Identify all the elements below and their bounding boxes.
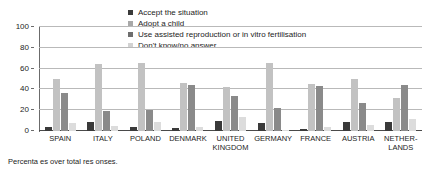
chart-footnote: Percenta es over total res onses. (8, 157, 118, 167)
bar (130, 127, 137, 131)
bar-group (39, 27, 82, 131)
bars (39, 27, 82, 131)
bars (252, 27, 295, 131)
bars (209, 27, 252, 131)
bar (351, 79, 358, 131)
bar (103, 111, 110, 131)
x-axis-label-line: NETHER- (380, 134, 423, 143)
bar-group (337, 27, 380, 131)
bar (146, 110, 153, 131)
x-axis-label-line: KINGDOM (209, 143, 252, 152)
plot-area (39, 27, 422, 131)
y-tick-label-20: 20 (20, 106, 29, 114)
bar-group (380, 27, 423, 131)
bar (45, 127, 52, 131)
y-tick-label-40: 40 (20, 85, 29, 93)
bars (294, 27, 337, 131)
y-tick-mark-0 (31, 130, 34, 131)
bar-group (209, 27, 252, 131)
legend-item-label: Accept the situation (138, 7, 208, 18)
x-axis-label: POLAND (124, 134, 167, 152)
y-tick-label-0: 0 (25, 127, 29, 135)
bar (196, 127, 203, 131)
bar-group (124, 27, 167, 131)
bar (223, 87, 230, 131)
x-axis-label: GERMANY (252, 134, 295, 152)
bar (343, 122, 350, 131)
x-axis-label: SPAIN (39, 134, 82, 152)
y-axis: 020406080100 (0, 27, 34, 131)
bar (282, 130, 289, 131)
x-axis-label-line: SPAIN (39, 134, 82, 143)
x-axis-label-line: ITALY (82, 134, 125, 143)
bars (380, 27, 423, 131)
y-tick-mark-80 (31, 47, 34, 48)
x-axis-label-line: POLAND (124, 134, 167, 143)
x-axis-label: UNITEDKINGDOM (209, 134, 252, 152)
bar-group (82, 27, 125, 131)
bar (53, 79, 60, 131)
x-axis-label-line: AUSTRIA (337, 134, 380, 143)
bar (300, 129, 307, 131)
bar (308, 84, 315, 131)
legend-swatch-icon (128, 10, 133, 15)
bar-group (294, 27, 337, 131)
bar (231, 96, 238, 131)
y-tick-mark-20 (31, 109, 34, 110)
bar (274, 108, 281, 131)
x-axis-label-line: DENMARK (167, 134, 210, 143)
bar (409, 119, 416, 131)
bar (87, 122, 94, 131)
bar (138, 63, 145, 131)
legend-item: Accept the situation (128, 7, 378, 18)
y-tick-label-80: 80 (20, 44, 29, 52)
bar-group (252, 27, 295, 131)
bar (154, 122, 161, 131)
bars (167, 27, 210, 131)
y-tick-mark-100 (31, 26, 34, 27)
x-axis-labels: SPAINITALYPOLANDDENMARKUNITEDKINGDOMGERM… (39, 134, 422, 152)
x-axis-label-line: GERMANY (252, 134, 295, 143)
bar (266, 63, 273, 131)
x-axis-label: AUSTRIA (337, 134, 380, 152)
bar-group (167, 27, 210, 131)
y-tick-mark-60 (31, 68, 34, 69)
x-axis-label: DENMARK (167, 134, 210, 152)
bar (188, 85, 195, 131)
bar (215, 121, 222, 131)
bar (385, 122, 392, 131)
x-axis-label: NETHER-LANDS (380, 134, 423, 152)
x-axis-label: FRANCE (294, 134, 337, 152)
bar (258, 123, 265, 131)
bar (393, 98, 400, 131)
bar (239, 117, 246, 131)
bars (337, 27, 380, 131)
x-axis-label-line: FRANCE (294, 134, 337, 143)
bars (82, 27, 125, 131)
bar (61, 93, 68, 131)
bar (111, 126, 118, 131)
bar (324, 127, 331, 131)
bars (124, 27, 167, 131)
x-axis-label-line: LANDS (380, 143, 423, 152)
bar-groups (39, 27, 422, 131)
bar (69, 123, 76, 131)
bar (316, 86, 323, 131)
bar (401, 85, 408, 131)
bar (359, 103, 366, 131)
x-axis-label: ITALY (82, 134, 125, 152)
y-tick-label-100: 100 (16, 23, 29, 31)
bar (180, 83, 187, 131)
y-tick-label-60: 60 (20, 65, 29, 73)
y-tick-mark-40 (31, 88, 34, 89)
bar (95, 64, 102, 131)
bar (367, 125, 374, 131)
bar (172, 128, 179, 131)
x-axis-label-line: UNITED (209, 134, 252, 143)
